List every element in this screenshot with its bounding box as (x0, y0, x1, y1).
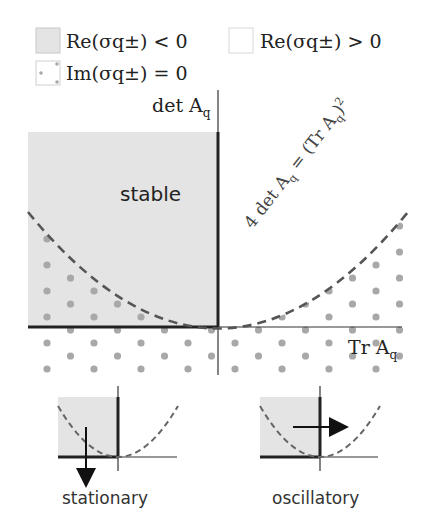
stable-label: stable (120, 182, 181, 206)
y-axis-label-sub: q (203, 106, 211, 120)
inset-stationary (58, 386, 178, 478)
stability-diagram (0, 0, 430, 519)
x-axis-label-sub: q (390, 348, 398, 362)
x-axis-label: Tr Aq (348, 336, 397, 362)
inset-oscillatory (260, 386, 380, 471)
legend-label-imag: Im(σq±) = 0 (66, 62, 188, 84)
x-axis-label-text: Tr A (348, 336, 390, 358)
inset-label-stationary: stationary (62, 488, 148, 508)
y-axis-label-text: det A (152, 94, 203, 116)
y-axis-label: det Aq (152, 94, 211, 120)
legend-label-stable: Re(σq±) < 0 (66, 30, 188, 52)
legend-swatch-empty (229, 28, 253, 53)
legend-swatch-shaded (36, 28, 60, 53)
legend-label-unstable: Re(σq±) > 0 (260, 30, 382, 52)
inset-label-oscillatory: oscillatory (272, 488, 359, 508)
